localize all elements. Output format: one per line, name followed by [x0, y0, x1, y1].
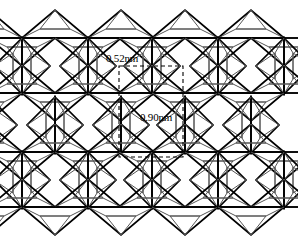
unit-cell-height-label: 0.90nm	[140, 111, 172, 123]
lattice-svg	[0, 0, 298, 247]
unit-cell-width-label: 0.52nm	[106, 52, 138, 64]
lattice-figure: 0.52nm 0.90nm	[0, 0, 298, 247]
